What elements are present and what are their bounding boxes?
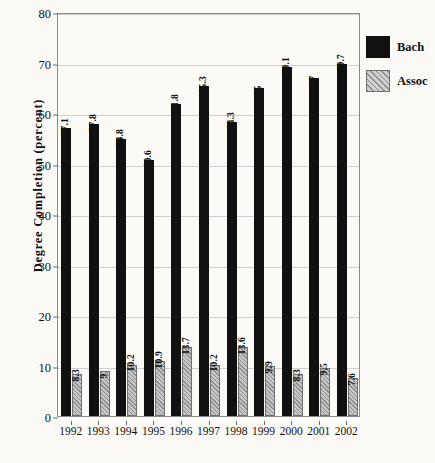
x-axis-tick-mark: [319, 421, 320, 425]
bar-assoc: [155, 361, 165, 416]
bar-group: 61.813.7: [170, 14, 193, 416]
bar-bach: [337, 64, 347, 416]
bar-value-label: 61.8: [171, 94, 181, 111]
bar-value-label: 65: [254, 85, 264, 95]
bar-value-label: 9: [99, 373, 109, 378]
legend-item-bach: Bach: [366, 36, 434, 58]
bar-assoc: [182, 347, 192, 416]
bar-value-label: 69.1: [281, 57, 291, 74]
bar-series-group: 57.18.357.8954.810.250.610.961.813.765.3…: [58, 14, 359, 416]
x-axis-tick-label: 1999: [252, 425, 275, 437]
x-axis-tick-labels: 1992199319941995199619971998199920002001…: [57, 421, 360, 443]
bar-group: 69.18.3: [281, 14, 304, 416]
x-axis-tick-mark: [153, 421, 154, 425]
x-axis-tick-mark: [264, 421, 265, 425]
x-axis-tick-label: 2000: [280, 425, 303, 437]
bar-value-label: 10.9: [154, 351, 164, 368]
bar-value-label: 7.6: [347, 373, 357, 385]
bar-value-label: 67: [309, 75, 319, 85]
bar-group: 659.9: [253, 14, 276, 416]
bar-group: 58.313.6: [226, 14, 249, 416]
bar-bach: [89, 124, 99, 416]
bar-group: 69.77.6: [336, 14, 359, 416]
x-axis-tick-mark: [181, 421, 182, 425]
bar-value-label: 9.5: [320, 363, 330, 375]
x-axis-tick-mark: [346, 421, 347, 425]
x-axis-tick-label: 2001: [307, 425, 330, 437]
bar-bach: [144, 160, 154, 416]
bar-value-label: 58.3: [226, 112, 236, 129]
chart-legend: Bach Assoc: [366, 36, 434, 104]
bar-assoc: [238, 347, 248, 416]
bar-assoc: [265, 366, 275, 416]
bar-value-label: 57.8: [88, 114, 98, 131]
bar-value-label: 9.9: [265, 361, 275, 373]
x-axis-tick-label: 2002: [335, 425, 358, 437]
legend-label-assoc: Assoc: [397, 74, 428, 89]
y-axis-title: Degree Completion (percent): [31, 56, 46, 316]
bar-value-label: 57.1: [61, 118, 71, 135]
bar-bach: [282, 67, 292, 416]
bar-group: 65.310.2: [198, 14, 221, 416]
bar-value-label: 50.6: [143, 151, 153, 168]
bar-group: 679.5: [308, 14, 331, 416]
x-axis-tick-mark: [71, 421, 72, 425]
x-axis-tick-label: 1995: [142, 425, 165, 437]
bar-value-label: 10.2: [210, 355, 220, 372]
bar-group: 57.89: [88, 14, 111, 416]
bar-bach: [171, 104, 181, 416]
x-axis-tick-label: 1996: [169, 425, 192, 437]
x-axis-tick-mark: [291, 421, 292, 425]
bar-bach: [227, 122, 237, 416]
legend-item-assoc: Assoc: [366, 70, 434, 92]
x-axis-tick-label: 1994: [114, 425, 137, 437]
bar-assoc: [127, 365, 137, 417]
legend-swatch-bach-icon: [366, 36, 390, 58]
bar-value-label: 8.3: [292, 369, 302, 381]
x-axis-tick-label: 1993: [87, 425, 110, 437]
x-axis-tick-label: 1998: [225, 425, 248, 437]
chart-container: Degree Completion (percent) 010203040506…: [0, 0, 435, 463]
plot-area: 01020304050607080 57.18.357.8954.810.250…: [57, 13, 360, 417]
bar-group: 50.610.9: [143, 14, 166, 416]
x-axis-tick-mark: [126, 421, 127, 425]
x-axis-tick-mark: [236, 421, 237, 425]
legend-label-bach: Bach: [397, 40, 424, 55]
bar-group: 54.810.2: [115, 14, 138, 416]
x-axis-tick-label: 1992: [59, 425, 82, 437]
bar-value-label: 54.8: [116, 129, 126, 146]
bar-group: 57.18.3: [60, 14, 83, 416]
x-axis-tick-mark: [98, 421, 99, 425]
bar-value-label: 13.6: [237, 337, 247, 354]
bar-bach: [199, 86, 209, 416]
x-axis-tick-label: 1997: [197, 425, 220, 437]
x-axis-tick-mark: [209, 421, 210, 425]
bar-value-label: 10.2: [127, 355, 137, 372]
bar-value-label: 13.7: [182, 337, 192, 354]
bar-bach: [116, 139, 126, 416]
bar-value-label: 69.7: [336, 54, 346, 71]
bar-value-label: 65.3: [199, 76, 209, 93]
y-axis-tick-mark: [53, 418, 58, 419]
bar-assoc: [210, 365, 220, 417]
legend-swatch-assoc-icon: [366, 70, 390, 92]
bar-value-label: 8.3: [72, 369, 82, 381]
